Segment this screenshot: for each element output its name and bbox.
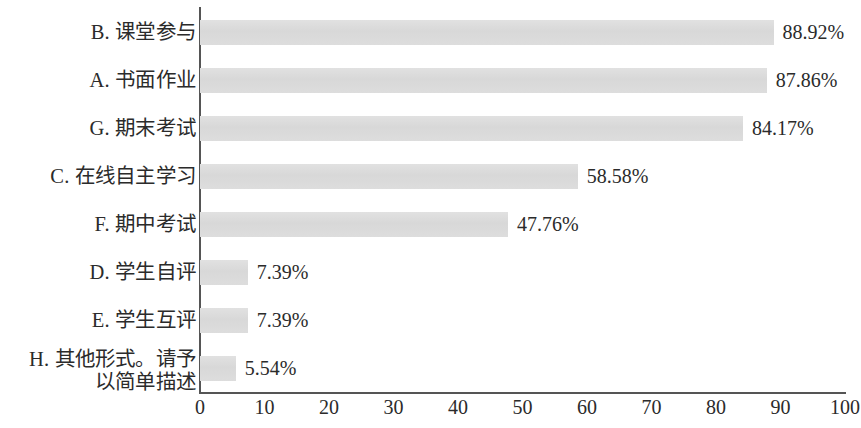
bar-value-label: 47.76% (508, 212, 579, 237)
x-axis-tick-labels: 0102030405060708090100 (0, 396, 861, 428)
bar-track: 87.86% (200, 68, 845, 93)
category-label: A. 书面作业 (90, 56, 196, 104)
bar-row: E. 学生互评7.39% (0, 296, 861, 344)
category-label: C. 在线自主学习 (50, 152, 196, 200)
category-label: B. 课堂参与 (91, 8, 196, 56)
bar-value-label: 5.54% (236, 356, 297, 381)
x-axis-tick-label: 40 (448, 396, 468, 419)
x-axis-tick-label: 20 (319, 396, 339, 419)
bar-track: 88.92% (200, 20, 845, 45)
x-axis-tick-label: 70 (642, 396, 662, 419)
x-axis-tick-label: 80 (706, 396, 726, 419)
bar (200, 212, 508, 237)
category-label: E. 学生互评 (92, 296, 196, 344)
bar-track: 84.17% (200, 116, 845, 141)
horizontal-bar-chart: B. 课堂参与88.92%A. 书面作业87.86%G. 期末考试84.17%C… (0, 0, 861, 428)
bar-row: D. 学生自评7.39% (0, 248, 861, 296)
category-label-line: H. 其他形式。请予 (29, 348, 196, 371)
bar-value-label: 7.39% (248, 308, 309, 333)
bar-value-label: 84.17% (743, 116, 814, 141)
bar-row: F. 期中考试47.76% (0, 200, 861, 248)
bar-row: G. 期末考试84.17% (0, 104, 861, 152)
bar-row: A. 书面作业87.86% (0, 56, 861, 104)
bar-track: 47.76% (200, 212, 845, 237)
bar-track: 7.39% (200, 260, 845, 285)
bar (200, 356, 236, 381)
bar-row: H. 其他形式。请予以简单描述5.54% (0, 344, 861, 392)
bar-track: 58.58% (200, 164, 845, 189)
category-label: H. 其他形式。请予以简单描述 (29, 344, 196, 396)
bar-value-label: 58.58% (578, 164, 649, 189)
x-axis-tick-label: 50 (513, 396, 533, 419)
bar (200, 68, 767, 93)
bar-row: C. 在线自主学习58.58% (0, 152, 861, 200)
bar (200, 20, 774, 45)
category-label-line: 以简单描述 (29, 371, 196, 394)
x-axis-tick-label: 90 (771, 396, 791, 419)
x-axis-tick-label: 60 (577, 396, 597, 419)
x-axis-tick-label: 0 (195, 396, 205, 419)
x-axis-line (199, 392, 846, 394)
bar-value-label: 88.92% (774, 20, 845, 45)
bar (200, 164, 578, 189)
category-label: G. 期末考试 (90, 104, 196, 152)
x-axis-tick-label: 100 (830, 396, 860, 419)
bar-row: B. 课堂参与88.92% (0, 8, 861, 56)
bar-track: 7.39% (200, 308, 845, 333)
bar-track: 5.54% (200, 356, 845, 381)
bar-value-label: 87.86% (767, 68, 838, 93)
bar (200, 116, 743, 141)
bar (200, 260, 248, 285)
bar-value-label: 7.39% (248, 260, 309, 285)
category-label: F. 期中考试 (95, 200, 196, 248)
x-axis-tick-label: 30 (384, 396, 404, 419)
category-label: D. 学生自评 (90, 248, 196, 296)
x-axis-tick-label: 10 (255, 396, 275, 419)
bar (200, 308, 248, 333)
